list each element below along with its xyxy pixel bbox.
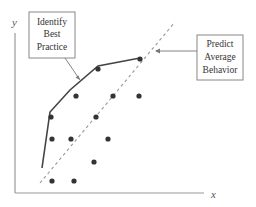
- best-practice-line-3: Practice: [37, 42, 68, 52]
- data-point: [49, 136, 54, 141]
- data-point: [49, 178, 54, 183]
- efficiency-diagram: y x Identify Best Practice Predict Avera…: [0, 0, 256, 207]
- data-point: [105, 136, 110, 141]
- data-point: [68, 136, 73, 141]
- arrowhead-icon: [76, 76, 81, 81]
- data-point: [110, 93, 115, 98]
- data-point: [91, 159, 96, 164]
- arrowhead-icon: [155, 49, 160, 54]
- data-points: [48, 56, 142, 183]
- average-behavior-line-1: Predict: [207, 39, 234, 49]
- data-point: [48, 114, 53, 119]
- data-point: [73, 93, 78, 98]
- best-practice-frontier-line: [42, 58, 140, 168]
- x-axis-label: x: [210, 188, 216, 200]
- data-point: [71, 178, 76, 183]
- data-point: [93, 114, 98, 119]
- y-axis-label: y: [11, 16, 17, 28]
- data-point: [137, 56, 142, 61]
- data-point: [95, 66, 100, 71]
- average-behavior-line-2: Average: [204, 52, 235, 62]
- data-point: [136, 93, 141, 98]
- best-practice-line-2: Best: [44, 29, 61, 39]
- best-practice-line-1: Identify: [37, 17, 67, 27]
- average-behavior-line-3: Behavior: [203, 65, 239, 75]
